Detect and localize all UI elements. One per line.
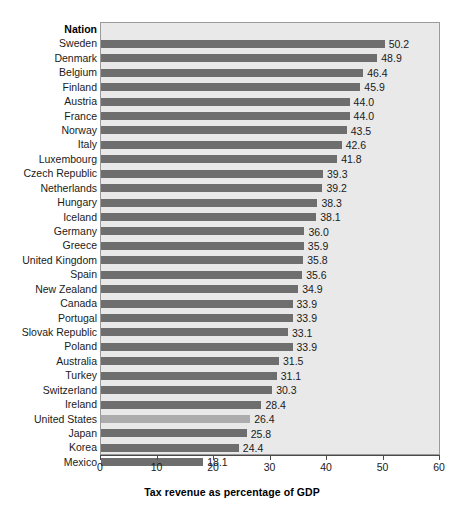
bar-value-germany: 36.0 xyxy=(308,225,328,239)
x-tick-20 xyxy=(213,455,214,460)
bar-czech-republic xyxy=(101,170,323,178)
bar-japan xyxy=(101,429,247,437)
bar-value-poland: 33.9 xyxy=(297,340,317,354)
x-axis-title: Tax revenue as percentage of GDP xyxy=(0,486,464,498)
category-label-greece: Greece xyxy=(0,238,97,252)
bar-row-portugal: Portugal33.9 xyxy=(0,311,464,325)
x-tick-60 xyxy=(439,455,440,460)
category-label-canada: Canada xyxy=(0,296,97,310)
bar-value-united-states: 26.4 xyxy=(254,412,274,426)
category-label-portugal: Portugal xyxy=(0,311,97,325)
bar-row-slovak-republic: Slovak Republic33.1 xyxy=(0,325,464,339)
bar-value-greece: 35.9 xyxy=(308,239,328,253)
bar-iceland xyxy=(101,213,316,221)
category-label-united-states: United States xyxy=(0,412,97,426)
bar-row-turkey: Turkey31.1 xyxy=(0,368,464,382)
bar-value-portugal: 33.9 xyxy=(297,311,317,325)
bar-value-slovak-republic: 33.1 xyxy=(292,326,312,340)
category-label-belgium: Belgium xyxy=(0,65,97,79)
bar-value-sweden: 50.2 xyxy=(389,37,409,51)
bar-value-switzerland: 30.3 xyxy=(276,383,296,397)
bar-luxembourg xyxy=(101,155,337,163)
bar-value-korea: 24.4 xyxy=(243,441,263,455)
category-label-finland: Finland xyxy=(0,80,97,94)
bar-korea xyxy=(101,444,239,452)
bar-value-turkey: 31.1 xyxy=(281,369,301,383)
category-label-iceland: Iceland xyxy=(0,210,97,224)
x-tick-label-10: 10 xyxy=(137,461,177,473)
bar-greece xyxy=(101,242,304,250)
bar-row-germany: Germany36.0 xyxy=(0,224,464,238)
bar-finland xyxy=(101,83,360,91)
bar-row-austria: Austria44.0 xyxy=(0,94,464,108)
category-label-france: France xyxy=(0,109,97,123)
category-label-australia: Australia xyxy=(0,354,97,368)
bar-value-australia: 31.5 xyxy=(283,354,303,368)
bar-row-netherlands: Netherlands39.2 xyxy=(0,181,464,195)
bar-row-poland: Poland33.9 xyxy=(0,339,464,353)
category-label-poland: Poland xyxy=(0,339,97,353)
category-label-italy: Italy xyxy=(0,137,97,151)
bar-value-austria: 44.0 xyxy=(354,95,374,109)
bar-value-spain: 35.6 xyxy=(306,268,326,282)
bar-value-czech-republic: 39.3 xyxy=(327,167,347,181)
bar-value-italy: 42.6 xyxy=(346,138,366,152)
category-label-czech-republic: Czech Republic xyxy=(0,166,97,180)
bar-row-korea: Korea24.4 xyxy=(0,440,464,454)
bar-row-norway: Norway43.5 xyxy=(0,123,464,137)
x-tick-label-50: 50 xyxy=(363,461,403,473)
x-tick-40 xyxy=(326,455,327,460)
bar-value-netherlands: 39.2 xyxy=(326,181,346,195)
category-label-hungary: Hungary xyxy=(0,195,97,209)
bar-row-new-zealand: New Zealand34.9 xyxy=(0,282,464,296)
bar-row-australia: Australia31.5 xyxy=(0,354,464,368)
category-label-spain: Spain xyxy=(0,267,97,281)
bar-germany xyxy=(101,227,304,235)
bar-value-finland: 45.9 xyxy=(364,80,384,94)
category-label-united-kingdom: United Kingdom xyxy=(0,253,97,267)
bar-turkey xyxy=(101,372,277,380)
bar-row-finland: Finland45.9 xyxy=(0,80,464,94)
category-label-sweden: Sweden xyxy=(0,36,97,50)
bar-value-ireland: 28.4 xyxy=(265,398,285,412)
category-label-luxembourg: Luxembourg xyxy=(0,152,97,166)
bar-australia xyxy=(101,357,279,365)
bar-france xyxy=(101,112,350,120)
bar-new-zealand xyxy=(101,285,298,293)
category-label-netherlands: Netherlands xyxy=(0,181,97,195)
bar-row-sweden: Sweden50.2 xyxy=(0,36,464,50)
bar-portugal xyxy=(101,314,293,322)
bar-value-united-kingdom: 35.8 xyxy=(307,253,327,267)
category-label-denmark: Denmark xyxy=(0,51,97,65)
category-label-turkey: Turkey xyxy=(0,368,97,382)
bar-belgium xyxy=(101,69,363,77)
category-label-switzerland: Switzerland xyxy=(0,383,97,397)
bar-austria xyxy=(101,98,350,106)
category-label-austria: Austria xyxy=(0,94,97,108)
category-label-japan: Japan xyxy=(0,426,97,440)
bar-value-hungary: 38.3 xyxy=(321,196,341,210)
bar-row-japan: Japan25.8 xyxy=(0,426,464,440)
bar-row-spain: Spain35.6 xyxy=(0,267,464,281)
bar-row-united-kingdom: United Kingdom35.8 xyxy=(0,253,464,267)
x-tick-label-30: 30 xyxy=(250,461,290,473)
category-label-germany: Germany xyxy=(0,224,97,238)
x-tick-10 xyxy=(157,455,158,460)
bar-united-states xyxy=(101,415,250,423)
category-label-new-zealand: New Zealand xyxy=(0,282,97,296)
bar-row-france: France44.0 xyxy=(0,109,464,123)
category-label-norway: Norway xyxy=(0,123,97,137)
bar-united-kingdom xyxy=(101,256,303,264)
x-tick-30 xyxy=(270,455,271,460)
bar-norway xyxy=(101,126,347,134)
bar-value-new-zealand: 34.9 xyxy=(302,282,322,296)
tax-revenue-bar-chart: NationSweden50.2Denmark48.9Belgium46.4Fi… xyxy=(0,0,464,520)
bar-rows-container: NationSweden50.2Denmark48.9Belgium46.4Fi… xyxy=(0,22,464,455)
x-tick-50 xyxy=(383,455,384,460)
bar-row-luxembourg: Luxembourg41.8 xyxy=(0,152,464,166)
bar-value-canada: 33.9 xyxy=(297,297,317,311)
bar-spain xyxy=(101,271,302,279)
bar-sweden xyxy=(101,40,385,48)
bar-denmark xyxy=(101,54,377,62)
bar-hungary xyxy=(101,199,317,207)
